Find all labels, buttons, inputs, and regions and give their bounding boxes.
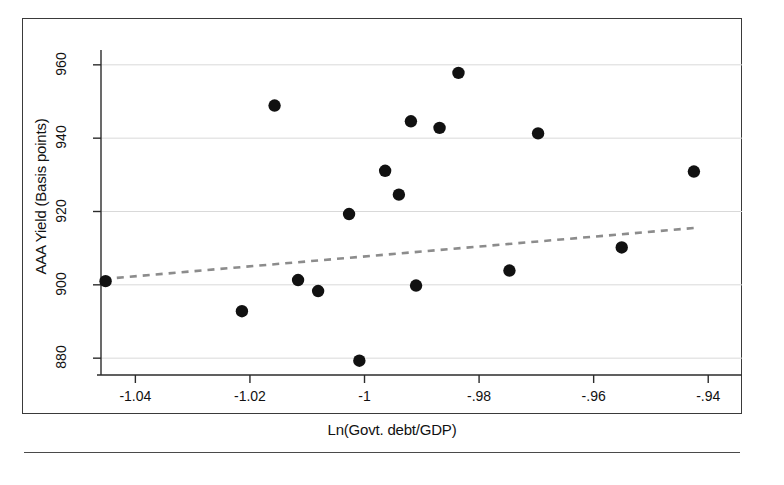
- scatter-point: [532, 127, 544, 139]
- y-tick-label: 920: [53, 189, 69, 233]
- x-tick-label: -.98: [467, 388, 491, 404]
- y-axis-title: AAA Yield (Basis points): [32, 67, 49, 327]
- x-axis-title: Ln(Govt. debt/GDP): [0, 421, 784, 438]
- regression-fit-line: [104, 228, 694, 279]
- x-tick-label: -.96: [582, 388, 606, 404]
- scatter-point: [433, 122, 445, 134]
- scatter-point: [616, 241, 628, 253]
- plot-canvas: [0, 0, 784, 485]
- scatter-point: [405, 115, 417, 127]
- scatter-points: [99, 67, 700, 367]
- scatter-point: [452, 67, 464, 79]
- scatter-point: [503, 264, 515, 276]
- scatter-point: [268, 99, 280, 111]
- gridlines: [101, 65, 742, 358]
- figure-container: -1.04-1.02-1-.98-.96-.94 880900920940960…: [0, 0, 784, 485]
- x-tick-label: -1: [358, 388, 370, 404]
- scatter-point: [353, 355, 365, 367]
- page-horizontal-rule: [24, 452, 740, 453]
- x-tick-label: -.94: [696, 388, 720, 404]
- scatter-point: [379, 165, 391, 177]
- scatter-point: [99, 275, 111, 287]
- scatter-point: [292, 274, 304, 286]
- scatter-point: [312, 285, 324, 297]
- axis-lines: [97, 50, 742, 375]
- x-tick-label: -1.02: [234, 388, 266, 404]
- x-tick-label: -1.04: [119, 388, 151, 404]
- scatter-point: [688, 165, 700, 177]
- y-tick-label: 880: [53, 335, 69, 379]
- y-tick-label: 960: [53, 42, 69, 86]
- scatter-point: [410, 279, 422, 291]
- scatter-point: [393, 188, 405, 200]
- y-tick-label: 900: [53, 262, 69, 306]
- y-tick-label: 940: [53, 115, 69, 159]
- tick-marks: [93, 65, 708, 383]
- scatter-point: [343, 208, 355, 220]
- scatter-point: [236, 305, 248, 317]
